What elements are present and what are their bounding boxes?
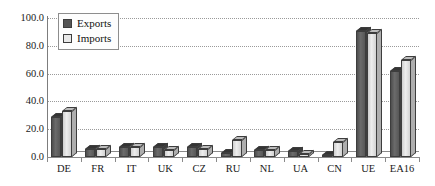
x-axis-labels: DEFRITUKCZRUNLUACNUEEA16	[47, 163, 419, 183]
bar-face	[153, 147, 163, 157]
bar-face	[119, 147, 129, 157]
bar-face	[96, 149, 106, 157]
bar-ua-exports	[288, 151, 298, 157]
bar-ue-imports	[367, 33, 377, 157]
bar-face	[322, 155, 332, 157]
legend-label: Imports	[77, 33, 111, 44]
bar-ea16-imports	[401, 60, 411, 157]
bar-fr-exports	[85, 149, 95, 157]
bar-cz-imports	[198, 149, 208, 157]
y-axis-tick-label: 100.0	[2, 13, 44, 23]
y-axis-tick-label: 60.0	[2, 69, 44, 79]
x-axis-tick	[351, 157, 352, 162]
x-axis-tick	[419, 157, 420, 162]
bar-face	[299, 154, 309, 157]
bar-cz-exports	[187, 147, 197, 157]
bar-face	[356, 31, 366, 157]
bar-face	[164, 150, 174, 157]
bar-face	[333, 142, 343, 157]
x-axis-tick	[148, 157, 149, 162]
bar-it-imports	[130, 147, 140, 157]
bar-face	[401, 60, 411, 157]
legend-swatch-icon	[63, 34, 72, 43]
bar-face	[130, 147, 140, 157]
bar-de-exports	[51, 117, 61, 157]
bar-face	[198, 149, 208, 157]
bar-nl-imports	[265, 150, 275, 157]
bar-uk-exports	[153, 147, 163, 157]
bar-face	[367, 33, 377, 157]
bar-side	[411, 56, 416, 157]
bar-face	[254, 150, 264, 157]
y-axis-tick-label: 80.0	[2, 41, 44, 51]
x-axis-tick	[284, 157, 285, 162]
bar-face	[51, 117, 61, 157]
y-axis-labels: 0.020.040.060.080.0100.0	[0, 0, 44, 186]
x-axis-tick	[216, 157, 217, 162]
x-axis-tick	[385, 157, 386, 162]
chart-legend: ExportsImports	[58, 13, 119, 50]
y-axis-tick-label: 40.0	[2, 96, 44, 106]
bar-face	[62, 111, 72, 157]
legend-item-exports[interactable]: Exports	[63, 16, 111, 31]
bar-face	[85, 149, 95, 157]
bar-ea16-exports	[390, 71, 400, 157]
x-axis-tick	[115, 157, 116, 162]
bar-cn-exports	[322, 155, 332, 157]
bar-it-exports	[119, 147, 129, 157]
bar-face	[232, 140, 242, 157]
bar-de-imports	[62, 111, 72, 157]
legend-swatch-icon	[63, 19, 72, 28]
x-axis-tick	[182, 157, 183, 162]
bar-ue-exports	[356, 31, 366, 157]
bar-face	[288, 151, 298, 157]
bar-face	[390, 71, 400, 157]
legend-item-imports[interactable]: Imports	[63, 31, 111, 46]
floor-front-edge	[47, 157, 419, 158]
y-axis-tick-label: 0.0	[2, 152, 44, 162]
bar-face	[221, 153, 231, 157]
x-axis-tick	[47, 157, 48, 162]
bar-side	[377, 29, 382, 157]
bar-chart: 0.020.040.060.080.0100.0 DEFRITUKCZRUNLU…	[0, 0, 435, 186]
bar-face	[265, 150, 275, 157]
x-axis-label-ea16: EA16	[379, 163, 425, 175]
x-axis-tick	[81, 157, 82, 162]
bar-ua-imports	[299, 154, 309, 157]
bar-fr-imports	[96, 149, 106, 157]
legend-label: Exports	[77, 18, 111, 29]
bar-ru-exports	[221, 153, 231, 157]
bar-ru-imports	[232, 140, 242, 157]
bar-face	[187, 147, 197, 157]
x-axis-tick	[250, 157, 251, 162]
bar-side	[72, 107, 77, 157]
x-axis-tick	[318, 157, 319, 162]
y-axis-line	[47, 16, 48, 159]
bar-uk-imports	[164, 150, 174, 157]
y-axis-tick-label: 20.0	[2, 124, 44, 134]
bar-nl-exports	[254, 150, 264, 157]
bar-cn-imports	[333, 142, 343, 157]
